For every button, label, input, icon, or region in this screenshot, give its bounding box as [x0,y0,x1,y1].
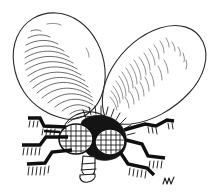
left-leg-accent [44,131,60,132]
proboscis-upper [82,156,95,176]
proboscis [80,156,96,182]
artwork-canvas: Fly housefly pen-and-ink line drawing ar… [0,0,215,194]
right-eye-outline [95,129,125,155]
fly-illustration [0,0,215,194]
